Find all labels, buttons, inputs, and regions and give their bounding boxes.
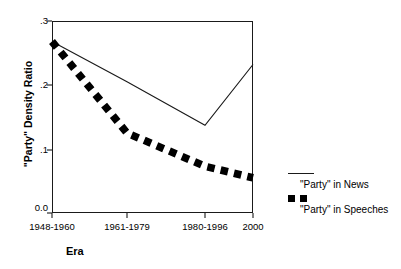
x-tick-label-2000: 2000 <box>242 221 263 232</box>
x-tick-label-1961-1979: 1961-1979 <box>104 221 149 232</box>
legend-item-party-in-news: "Party" in News <box>288 168 400 191</box>
legend-item-party-in-speeches: "Party" in Speeches <box>288 193 400 216</box>
x-axis-title: Era <box>66 245 84 257</box>
chart-figure: .3 .2 .1 0.0 1948-1960 1961-1979 1980-1 <box>0 0 401 269</box>
series-line-party-in-news <box>52 42 253 126</box>
x-tick-marks <box>52 213 253 218</box>
series-line-party-in-speeches <box>52 42 253 178</box>
chart-legend: "Party" in News "Party" in Speeches <box>288 168 400 218</box>
y-tick-marks <box>47 21 52 213</box>
y-axis-title: "Party" Density Ratio <box>22 34 34 194</box>
x-tick-label-1948-1960: 1948-1960 <box>29 221 74 232</box>
legend-label-party-in-news: "Party" in News <box>288 168 400 191</box>
legend-solid-line-icon <box>288 173 314 174</box>
legend-dashed-line-icon <box>288 195 316 202</box>
x-tick-label-1980-1996: 1980-1996 <box>182 221 227 232</box>
